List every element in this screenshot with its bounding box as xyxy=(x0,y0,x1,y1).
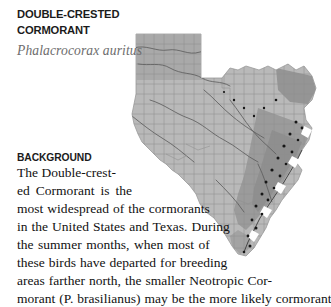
paragraph-line: the summer months, when most of xyxy=(17,237,210,253)
paragraph-line: in the United States and Texas. During xyxy=(17,219,230,235)
paragraph-line: areas farther north, the smaller Neotrop… xyxy=(17,273,272,289)
species-common-name-line-2: CORMORANT xyxy=(17,23,167,39)
paragraph-line: The Double-crest- xyxy=(17,165,116,181)
species-scientific-name: Phalacrocorax auritus xyxy=(17,43,142,59)
species-common-name: DOUBLE-CRESTED CORMORANT xyxy=(17,7,167,38)
section-heading-background: BACKGROUND xyxy=(17,152,92,163)
paragraph-line: most widespread of the cormorants xyxy=(17,201,210,217)
paragraph-line-clipped: morant (P. brasilianus) may be the more … xyxy=(17,291,331,307)
paragraph-line: ed Cormorant is the xyxy=(17,183,132,199)
species-common-name-line-1: DOUBLE-CRESTED xyxy=(17,7,167,23)
paragraph-line: these birds have departed for breeding xyxy=(17,255,227,271)
